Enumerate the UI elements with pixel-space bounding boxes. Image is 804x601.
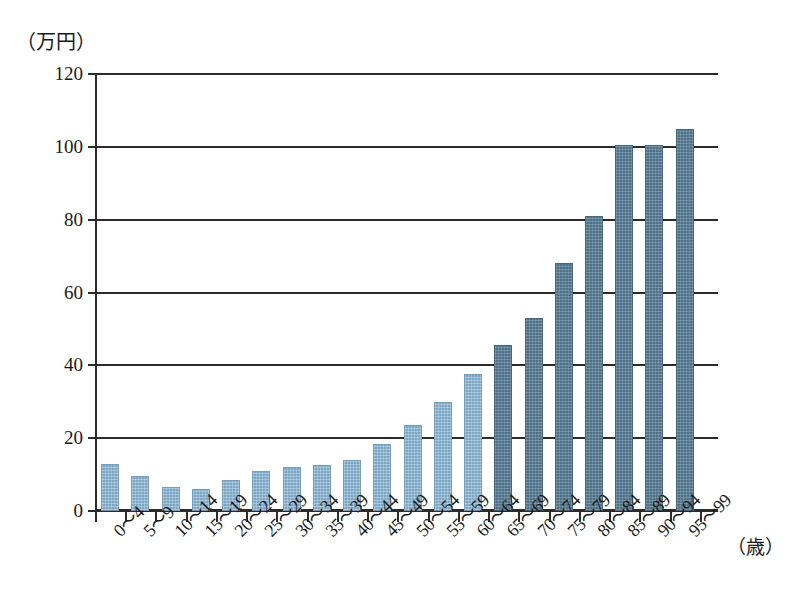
bar-series — [95, 74, 718, 511]
bar[interactable] — [615, 145, 633, 511]
bar-slot — [639, 74, 669, 511]
bar-slot — [155, 74, 185, 511]
bar-slot — [488, 74, 518, 511]
bar-slot — [337, 74, 367, 511]
bar[interactable] — [494, 345, 512, 511]
bar-slot — [95, 74, 125, 511]
y-axis-tick-label: 60 — [64, 281, 83, 303]
bar-slot — [549, 74, 579, 511]
bar[interactable] — [645, 145, 663, 511]
x-axis-unit-label: （歳） — [727, 532, 784, 559]
bar-slot — [307, 74, 337, 511]
y-axis-tick-label: 120 — [55, 63, 84, 85]
bar-slot — [397, 74, 427, 511]
x-axis-labels: 0〜45〜910〜1415〜1920〜2425〜2930〜3435〜3940〜4… — [95, 523, 795, 601]
y-axis-tick-label: 0 — [74, 500, 84, 522]
bar[interactable] — [525, 318, 543, 511]
bar-slot — [518, 74, 548, 511]
bar-slot — [428, 74, 458, 511]
y-axis-tick-label: 100 — [55, 135, 84, 157]
bar-slot — [246, 74, 276, 511]
y-axis-tick-label: 40 — [64, 354, 83, 376]
x-axis-tick-mark — [95, 511, 97, 522]
bar-slot — [609, 74, 639, 511]
bar-slot — [216, 74, 246, 511]
bar[interactable] — [676, 129, 694, 511]
bar-slot — [367, 74, 397, 511]
y-axis-tick-label: 20 — [64, 427, 83, 449]
bar-slot — [125, 74, 155, 511]
y-axis-unit-label: （万円） — [16, 26, 96, 55]
bar-chart: （万円） 020406080100120 0〜45〜910〜1415〜1920〜… — [0, 0, 804, 601]
bar[interactable] — [585, 216, 603, 511]
bar-slot — [276, 74, 306, 511]
bar-slot — [458, 74, 488, 511]
plot-area: 020406080100120 — [95, 74, 718, 511]
bar-slot — [186, 74, 216, 511]
bar[interactable] — [101, 464, 119, 511]
y-axis-tick-label: 80 — [64, 208, 83, 230]
bar-slot — [670, 74, 700, 511]
bar-slot — [579, 74, 609, 511]
bar[interactable] — [555, 263, 573, 511]
